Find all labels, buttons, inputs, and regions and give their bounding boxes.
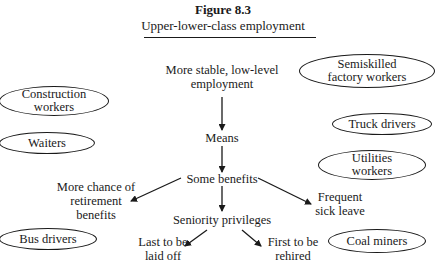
node-stable-employment: More stable, low-level employment [152, 63, 292, 91]
construction-line2: workers [22, 101, 87, 114]
node-sick-leave: Frequent sick leave [308, 190, 372, 218]
node-laid-off-line1: Last to be [130, 235, 196, 249]
ellipse-utilities-workers: Utilities workers [318, 150, 426, 180]
node-first-rehired: First to be rehired [258, 235, 328, 263]
node-sick-leave-line2: sick leave [308, 204, 372, 218]
utilities-line2: workers [352, 165, 392, 178]
node-retirement-benefits: More chance of retirement benefits [50, 180, 142, 222]
ellipse-truck-drivers: Truck drivers [332, 113, 432, 135]
node-retirement-line2: retirement [50, 194, 142, 208]
node-seniority-privileges: Seniority privileges [157, 213, 287, 227]
node-means: Means [182, 131, 262, 145]
node-retirement-line3: benefits [50, 208, 142, 222]
node-retirement-line1: More chance of [50, 180, 142, 194]
node-laid-off-line2: laid off [130, 249, 196, 263]
node-stable-employment-line2: employment [152, 77, 292, 91]
ellipse-bus-drivers: Bus drivers [0, 228, 97, 250]
ellipse-waiters: Waiters [0, 132, 95, 154]
node-sick-leave-line1: Frequent [308, 190, 372, 204]
ellipse-semiskilled-factory-workers: Semiskilled factory workers [299, 54, 435, 88]
semiskilled-line2: factory workers [328, 71, 407, 84]
node-rehired-line1: First to be [258, 235, 328, 249]
node-rehired-line2: rehired [258, 249, 328, 263]
ellipse-coal-miners: Coal miners [328, 229, 426, 253]
node-last-laid-off: Last to be laid off [130, 235, 196, 263]
ellipse-construction-workers: Construction workers [0, 86, 109, 116]
node-some-benefits: Some benefits [172, 172, 272, 186]
node-stable-employment-line1: More stable, low-level [152, 63, 292, 77]
